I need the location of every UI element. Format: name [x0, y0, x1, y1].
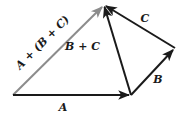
vector-addition-diagram: A B C B + C A + (B + C) — [0, 0, 186, 118]
vector-b-arrow — [131, 50, 173, 95]
label-b: B — [152, 73, 162, 86]
vector-b-plus-c-arrow — [105, 7, 132, 95]
label-resultant: A + (B + C) — [12, 13, 72, 73]
label-c: C — [141, 12, 150, 25]
label-a: A — [58, 101, 68, 114]
label-b-plus-c: B + C — [64, 40, 100, 53]
